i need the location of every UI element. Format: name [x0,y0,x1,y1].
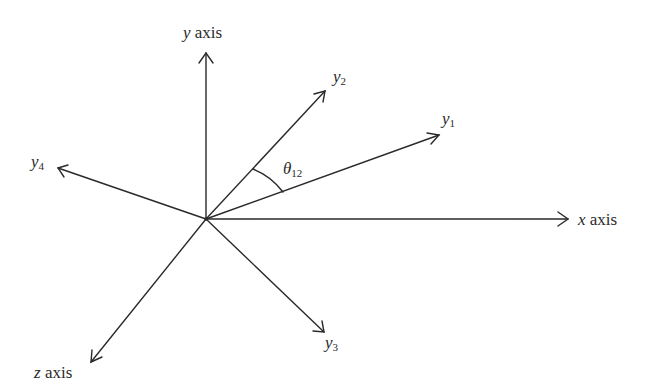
y2-label: y2 [333,68,346,87]
vector-diagram [0,0,657,390]
y-axis-label-var: y [183,23,191,42]
x-axis-label-var: x [578,210,586,229]
y-axis-label: y axis [183,24,222,41]
y2-label-sub: 2 [341,75,347,87]
y3-vector-line [206,219,324,332]
theta12-angle-arc [253,169,283,192]
y2-vector-line [206,91,325,219]
y1-label-sub: 1 [450,117,456,129]
z-axis-label-var: z [34,363,41,382]
theta12-label: θ12 [283,160,302,179]
y3-label: y3 [325,334,338,353]
y3-label-sub: 3 [333,341,339,353]
theta12-label-sub: 12 [291,167,302,179]
y1-vector-line [206,135,439,219]
z-axis-line [91,219,206,362]
z-axis-label-text: axis [45,363,72,382]
y3-label-var: y [325,333,333,352]
y4-label-var: y [31,152,39,171]
y4-vector-line [58,168,206,219]
x-axis-label: x axis [578,211,617,228]
origin-point [204,217,208,221]
y-axis-label-text: axis [195,23,222,42]
y4-label: y4 [31,153,44,172]
y4-label-sub: 4 [39,160,45,172]
y2-label-var: y [333,67,341,86]
y1-label: y1 [442,110,455,129]
x-axis-label-text: axis [590,210,617,229]
y1-label-var: y [442,109,450,128]
z-axis-label: z axis [34,364,72,381]
